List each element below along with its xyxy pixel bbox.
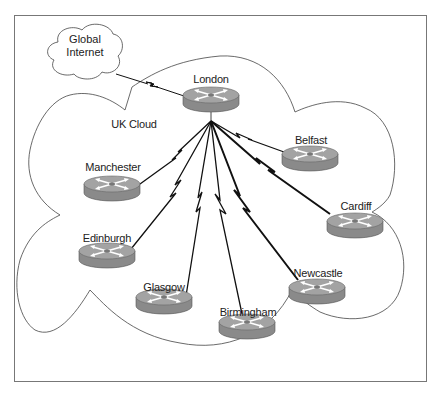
router-manchester[interactable] xyxy=(84,176,140,201)
label-manchester: Manchester xyxy=(85,161,140,173)
global-internet-label: Global Internet xyxy=(64,33,106,59)
global-label-line2: Internet xyxy=(64,46,106,59)
router-edinburgh[interactable] xyxy=(79,243,135,268)
network-diagram xyxy=(0,0,442,395)
router-belfast[interactable] xyxy=(282,146,338,171)
label-newcastle: Newcastle xyxy=(294,267,343,279)
internet-link xyxy=(116,74,184,96)
label-cardiff: Cardiff xyxy=(341,200,372,212)
label-belfast: Belfast xyxy=(295,134,327,146)
uk-cloud-label: UK Cloud xyxy=(111,118,156,130)
router-newcastle[interactable] xyxy=(289,279,345,304)
router-cardiff[interactable] xyxy=(327,213,383,238)
label-edinburgh: Edinburgh xyxy=(83,232,131,244)
label-london: London xyxy=(193,73,229,85)
label-birmingham: Birmingham xyxy=(220,306,277,318)
router-london[interactable] xyxy=(183,87,239,112)
label-glasgow: Glasgow xyxy=(143,281,184,293)
global-label-line1: Global xyxy=(64,33,106,46)
